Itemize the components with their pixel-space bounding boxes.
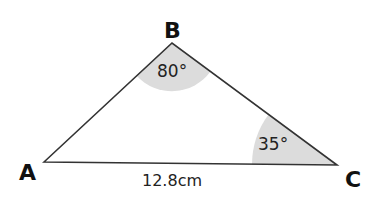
angle-label-c: 35° <box>258 134 288 154</box>
vertex-label-b: B <box>164 18 181 43</box>
vertex-label-c: C <box>345 167 361 192</box>
angle-label-b: 80° <box>157 61 187 81</box>
side-label-ac: 12.8cm <box>142 171 202 190</box>
vertex-label-a: A <box>19 160 36 185</box>
triangle-diagram: B A C 80° 35° 12.8cm <box>0 0 369 219</box>
